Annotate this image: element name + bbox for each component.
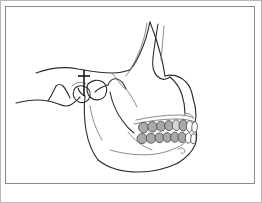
anatomical-figure: Lateral view line drawing of human skull… [0, 0, 262, 203]
lower-tooth-6-incisor [178, 132, 186, 143]
upper-tooth-8-incisor [191, 121, 197, 132]
lower-tooth-8-incisor [190, 134, 196, 144]
figure-background [0, 0, 262, 203]
skull-lateral-diagram [0, 0, 262, 203]
